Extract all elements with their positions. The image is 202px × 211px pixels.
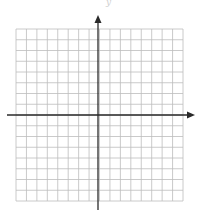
coordinate-plane xyxy=(0,0,202,211)
y-axis-arrow-icon xyxy=(95,15,102,23)
axes xyxy=(7,15,195,210)
x-axis-arrow-icon xyxy=(187,112,195,119)
y-axis-label: y xyxy=(106,0,111,7)
